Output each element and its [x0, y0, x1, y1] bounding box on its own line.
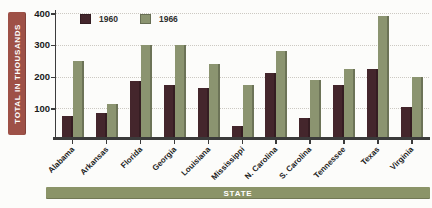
x-axis-title: STATE — [223, 189, 252, 198]
bar-virginia-1960 — [401, 107, 412, 140]
bar-texas-1960 — [367, 69, 378, 140]
y-tick-label-400: 400 — [20, 8, 50, 19]
y-tick-label-300: 300 — [20, 39, 50, 50]
bar-tennessee-1966 — [344, 69, 355, 140]
bar-chart: TOTAL IN THOUSANDS 1960 1966 AlabamaArka… — [0, 0, 432, 208]
y-tick-mark — [51, 108, 55, 110]
bar-florida-1960 — [130, 81, 141, 140]
bar-n-carolina-1966 — [276, 51, 287, 140]
bar-tennessee-1960 — [333, 85, 344, 140]
y-tick-mark — [51, 77, 55, 79]
gridline-400 — [56, 13, 429, 14]
x-tick-mark — [411, 140, 413, 144]
y-tick-label-100: 100 — [20, 103, 50, 114]
x-axis-title-strip: STATE — [46, 187, 430, 199]
bar-louisiana-1960 — [198, 88, 209, 140]
plot-area — [55, 10, 429, 140]
bar-louisiana-1966 — [209, 64, 220, 140]
x-tick-mark — [309, 140, 311, 144]
x-tick-mark — [208, 140, 210, 144]
x-tick-mark — [72, 140, 74, 144]
bar-mississippi-1966 — [243, 85, 254, 140]
bar-florida-1966 — [141, 45, 152, 140]
x-tick-mark — [275, 140, 277, 144]
x-tick-mark — [174, 140, 176, 144]
bar-texas-1966 — [378, 16, 389, 140]
bar-arkansas-1960 — [96, 113, 107, 140]
x-tick-mark — [343, 140, 345, 144]
x-tick-mark — [242, 140, 244, 144]
y-tick-label-200: 200 — [20, 71, 50, 82]
bar-alabama-1966 — [73, 61, 84, 140]
bar-arkansas-1966 — [107, 104, 118, 140]
bar-georgia-1966 — [175, 45, 186, 140]
y-tick-mark — [51, 13, 55, 15]
x-tick-mark — [106, 140, 108, 144]
bar-virginia-1966 — [412, 77, 423, 140]
bar-s-carolina-1966 — [310, 80, 321, 140]
y-tick-mark — [51, 45, 55, 47]
gridline-300 — [56, 45, 429, 46]
x-tick-mark — [140, 140, 142, 144]
x-tick-mark — [377, 140, 379, 144]
bar-n-carolina-1960 — [265, 73, 276, 140]
bar-georgia-1960 — [164, 85, 175, 140]
